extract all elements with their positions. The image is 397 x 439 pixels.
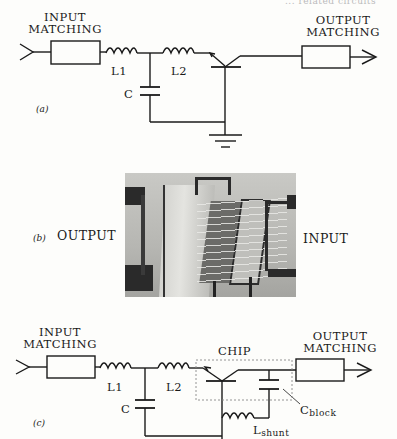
inductor-l1-icon-c bbox=[100, 363, 131, 368]
schematic-c bbox=[0, 0, 397, 439]
input-matching-box-c bbox=[47, 356, 95, 378]
output-matching-box-c bbox=[296, 359, 344, 381]
input-port-icon-c bbox=[16, 360, 29, 374]
inductor-l2-icon-c bbox=[158, 363, 189, 368]
inductor-l-shunt-icon bbox=[222, 413, 254, 418]
